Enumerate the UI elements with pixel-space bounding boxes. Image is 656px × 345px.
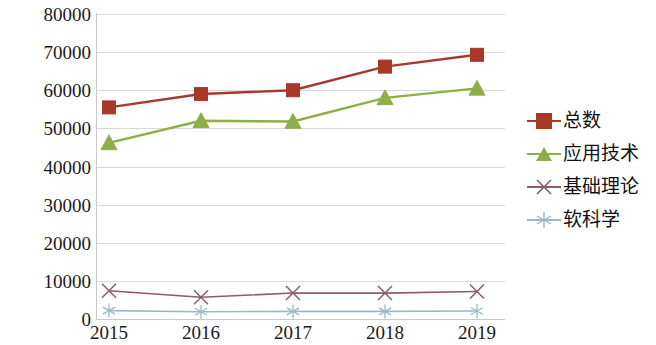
data-point-square [103,101,116,114]
legend-item-total[interactable]: 总数 [527,104,655,137]
legend-item-applied-technology[interactable]: 应用技术 [527,137,655,170]
legend-item-soft-science[interactable]: 软科学 [527,203,655,236]
data-point-square [471,48,484,61]
x-tick-label: 2017 [258,323,328,342]
series-line [102,284,484,304]
x-tick-label: 2019 [442,323,512,342]
legend-item-basic-theory[interactable]: 基础理论 [527,170,655,203]
x-tick-label: 2016 [166,323,236,342]
series-line [103,304,483,319]
x-tick-label: 2018 [350,323,420,342]
legend-swatch-x-icon [527,177,561,197]
legend-swatch-triangle-icon [527,144,561,164]
legend-label: 基础理论 [563,177,639,196]
data-point-square [379,60,392,73]
data-point-square [287,84,300,97]
legend-swatch-square-icon [527,111,561,131]
data-point-square [195,88,208,101]
legend-label: 应用技术 [563,144,639,163]
legend-label: 软科学 [563,210,620,229]
legend-label: 总数 [563,111,601,130]
series-line [103,48,484,114]
series-polyline [109,55,477,108]
legend-swatch-asterisk-icon [527,210,561,230]
chart-legend: 总数 应用技术 基础理论 软科学 [527,104,655,236]
x-tick-label: 2015 [74,323,144,342]
line-chart: 80000 70000 60000 50000 40000 30000 2000… [0,0,656,345]
